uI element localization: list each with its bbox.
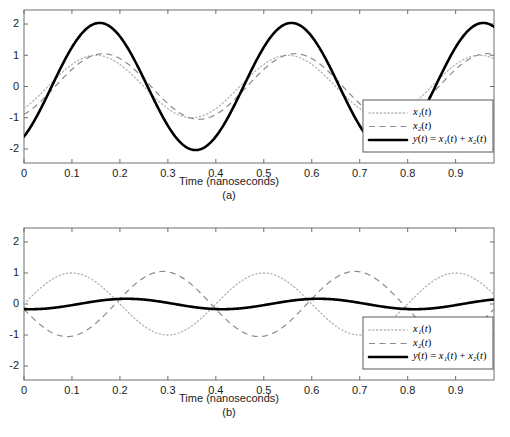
legend-label-x1: x₁(t)	[412, 323, 432, 335]
panel-caption: (a)	[222, 189, 235, 201]
x-tick-label: 0.7	[352, 167, 367, 179]
x-tick-label: 0.7	[352, 384, 367, 396]
panel-a-plot: 00.10.20.30.40.50.60.70.80.9210-1-2Time …	[0, 0, 510, 215]
y-tick-label: 1	[13, 266, 19, 278]
y-tick-label: 0	[13, 297, 19, 309]
legend-label-y: y(t) = x₁(t) + x₂(t)	[412, 350, 487, 362]
y-tick-label: 2	[13, 17, 19, 29]
y-tick-label: 1	[13, 49, 19, 61]
x-tick-label: 0.9	[448, 384, 463, 396]
y-tick-label: 2	[13, 235, 19, 247]
x-axis-label: Time (nanoseconds)	[179, 392, 279, 404]
x-tick-label: 0.1	[64, 167, 79, 179]
legend-label-x2: x₂(t)	[412, 337, 432, 349]
x-tick-label: 0.8	[400, 384, 415, 396]
panel-b: 00.10.20.30.40.50.60.70.80.9210-1-2Time …	[0, 218, 510, 437]
panel-b-plot: 00.10.20.30.40.50.60.70.80.9210-1-2Time …	[0, 218, 510, 437]
y-tick-label: -2	[9, 359, 19, 371]
x-tick-label: 0	[21, 167, 27, 179]
legend-label-y: y(t) = x₁(t) + x₂(t)	[412, 133, 487, 145]
x-tick-label: 0	[21, 384, 27, 396]
x-axis-label: Time (nanoseconds)	[179, 175, 279, 187]
x-tick-label: 0.6	[304, 384, 319, 396]
y-tick-label: -1	[9, 328, 19, 340]
x-tick-label: 0.3	[160, 384, 175, 396]
y-tick-label: -1	[9, 111, 19, 123]
x-tick-label: 0.9	[448, 167, 463, 179]
legend-label-x1: x₁(t)	[412, 106, 432, 118]
y-tick-label: -2	[9, 142, 19, 154]
legend-label-x2: x₂(t)	[412, 120, 432, 132]
panel-caption: (b)	[222, 406, 235, 418]
x-tick-label: 0.2	[112, 167, 127, 179]
x-tick-label: 0.1	[64, 384, 79, 396]
x-tick-label: 0.2	[112, 384, 127, 396]
interference-figure: 00.10.20.30.40.50.60.70.80.9210-1-2Time …	[0, 0, 510, 437]
x-tick-label: 0.6	[304, 167, 319, 179]
panel-a: 00.10.20.30.40.50.60.70.80.9210-1-2Time …	[0, 0, 510, 215]
x-tick-label: 0.8	[400, 167, 415, 179]
y-tick-label: 0	[13, 80, 19, 92]
x-tick-label: 0.3	[160, 167, 175, 179]
